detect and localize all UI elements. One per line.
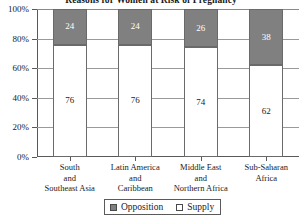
- bar-segment-supply[interactable]: 62: [249, 65, 283, 157]
- legend-item-opposition[interactable]: Opposition: [110, 202, 163, 212]
- y-axis-label: 60%: [13, 63, 30, 73]
- bar-segment-supply[interactable]: 76: [53, 45, 87, 157]
- x-axis-tick: [266, 157, 267, 161]
- y-axis-label: 40%: [13, 93, 30, 103]
- legend-label-opposition: Opposition: [121, 202, 163, 212]
- bar-segment-opposition[interactable]: 24: [118, 9, 152, 45]
- chart-container: Reasons for Women at Risk of Pregnancy 0…: [0, 0, 302, 222]
- category-label-line: Northern Africa: [163, 183, 239, 194]
- y-axis-tick: [32, 157, 37, 158]
- legend-swatch-opposition-icon: [110, 204, 117, 211]
- bar-segment-supply[interactable]: 74: [184, 47, 218, 157]
- y-axis-label: 80%: [13, 34, 30, 44]
- y-axis-tick: [32, 39, 37, 40]
- bar-group[interactable]: 7624: [118, 9, 152, 157]
- y-axis-tick: [32, 98, 37, 99]
- y-axis-tick: [32, 9, 37, 10]
- bar-segment-opposition[interactable]: 38: [249, 9, 283, 65]
- chart-title: Reasons for Women at Risk of Pregnancy: [0, 0, 302, 6]
- bar-group[interactable]: 7624: [53, 9, 87, 157]
- legend-label-supply: Supply: [187, 202, 214, 212]
- y-axis-tick: [32, 68, 37, 69]
- bar-segment-opposition[interactable]: 24: [53, 9, 87, 45]
- bar-group[interactable]: 7426: [184, 9, 218, 157]
- y-axis-label: 0%: [17, 152, 29, 162]
- x-axis-tick: [70, 157, 71, 161]
- y-axis-label: 100%: [8, 4, 29, 14]
- x-axis-tick: [201, 157, 202, 161]
- bar-segment-opposition[interactable]: 26: [184, 9, 218, 47]
- bar-segment-supply[interactable]: 76: [118, 45, 152, 157]
- y-axis-label: 20%: [13, 122, 30, 132]
- y-axis-tick: [32, 127, 37, 128]
- category-label-line: Sub-Saharan: [228, 162, 302, 173]
- chart-legend: Opposition Supply: [104, 199, 221, 215]
- bar-group[interactable]: 6238: [249, 9, 283, 157]
- plot-area: 0%20%40%60%80%100% 7624762474266238: [37, 9, 299, 157]
- x-axis-tick: [135, 157, 136, 161]
- x-axis-category-label: Sub-SaharanAfrica: [228, 162, 302, 183]
- legend-item-supply[interactable]: Supply: [176, 202, 214, 212]
- legend-swatch-supply-icon: [176, 204, 183, 211]
- category-label-line: Africa: [228, 173, 302, 184]
